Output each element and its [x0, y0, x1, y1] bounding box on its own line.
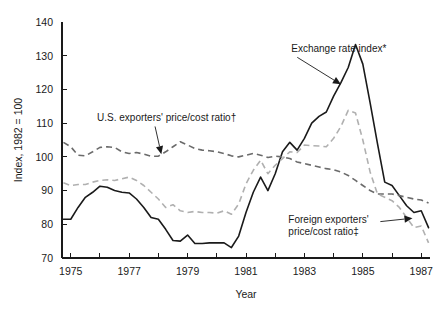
y-tick-label: 90	[41, 184, 53, 196]
x-tick-label: 1979	[176, 265, 200, 277]
y-tick-label: 130	[35, 50, 53, 62]
y-axis-title: Index, 1982 = 100	[12, 98, 24, 183]
y-tick-label: 100	[35, 151, 53, 163]
line-chart: 708090100110120130140 197519771979198119…	[0, 0, 441, 310]
x-tick-label: 1985	[351, 265, 375, 277]
x-tick-label: 1987	[410, 265, 434, 277]
y-tick-label: 80	[41, 218, 53, 230]
y-tick-label: 70	[41, 252, 53, 264]
y-tick-label: 120	[35, 83, 53, 95]
x-tick-label: 1981	[234, 265, 258, 277]
foreign-exporters-annotation-label-line1: Foreign exporters'	[288, 214, 368, 225]
x-tick-label: 1983	[293, 265, 317, 277]
x-tick-label: 1975	[59, 265, 83, 277]
x-axis-title: Year	[235, 288, 257, 300]
foreign-exporters-annotation-label-line2: price/cost ratio‡	[288, 226, 359, 237]
x-tick-label: 1977	[117, 265, 141, 277]
chart-figure: 708090100110120130140 197519771979198119…	[0, 0, 441, 310]
us-exporters-annotation-label: U.S. exporters' price/cost ratio†	[97, 112, 236, 123]
y-tick-label: 140	[35, 16, 53, 28]
y-tick-label: 110	[36, 117, 53, 129]
exchange-rate-annotation-label: Exchange rate index*	[291, 43, 386, 54]
